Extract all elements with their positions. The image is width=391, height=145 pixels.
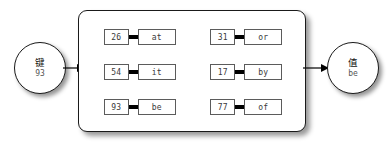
entry-key: 54: [104, 64, 129, 80]
table-row[interactable]: 77 of: [210, 99, 282, 115]
entry-value: or: [244, 29, 282, 45]
table-row[interactable]: 17 by: [210, 64, 282, 80]
value-node[interactable]: 值 be: [327, 42, 379, 94]
value-node-label: 值: [348, 57, 358, 68]
entry-key: 93: [104, 99, 129, 115]
hash-table-container: 26 at 31 or 54 it 17 by 93: [78, 10, 306, 132]
table-row[interactable]: 31 or: [210, 29, 282, 45]
link-bar-icon: [129, 70, 138, 74]
table-row[interactable]: 26 at: [104, 29, 176, 45]
arrow-right-icon: [303, 62, 329, 74]
entry-key: 31: [210, 29, 235, 45]
key-node-label: 键: [35, 57, 45, 68]
value-node-value: be: [348, 69, 358, 79]
link-bar-icon: [129, 35, 138, 39]
entry-key: 77: [210, 99, 235, 115]
entry-value: be: [138, 99, 176, 115]
entries-grid: 26 at 31 or 54 it 17 by 93: [79, 11, 307, 133]
key-node-value: 93: [35, 69, 45, 79]
link-bar-icon: [235, 105, 244, 109]
entry-key: 26: [104, 29, 129, 45]
entry-key: 17: [210, 64, 235, 80]
entry-value: by: [244, 64, 282, 80]
table-row[interactable]: 54 it: [104, 64, 176, 80]
key-node[interactable]: 键 93: [14, 42, 66, 94]
link-bar-icon: [235, 70, 244, 74]
link-bar-icon: [129, 105, 138, 109]
link-bar-icon: [235, 35, 244, 39]
key-value-diagram: 键 93 26 at 31 or 54 it 17: [0, 0, 391, 145]
entry-value: of: [244, 99, 282, 115]
entry-value: it: [138, 64, 176, 80]
entry-value: at: [138, 29, 176, 45]
table-row[interactable]: 93 be: [104, 99, 176, 115]
